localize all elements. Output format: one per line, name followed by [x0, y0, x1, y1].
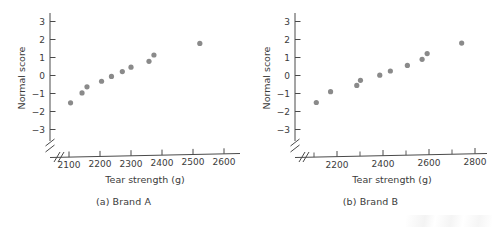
data-point	[425, 51, 430, 56]
scatter-plot-a: 3 2 1 0 −1 −2 −3	[0, 0, 247, 200]
x-ticklabel-a-2: 2300	[120, 159, 143, 169]
y-ticklabel-b-4: −1	[277, 89, 290, 99]
y-ticklabel-a-0: 3	[39, 17, 45, 27]
y-ticklabel-b-1: 2	[284, 35, 290, 45]
data-point	[109, 74, 114, 79]
panel-caption-b: (b) Brand B	[247, 196, 494, 207]
y-ticklabel-a-6: −3	[32, 125, 45, 135]
data-point	[151, 52, 156, 57]
data-point	[314, 100, 319, 105]
y-ticks-a	[50, 22, 56, 130]
x-ticklabel-b-1: 2400	[372, 159, 395, 169]
x-ticklabel-a-5: 2600	[213, 157, 236, 167]
data-point	[388, 68, 393, 73]
y-ticklabel-a-5: −2	[32, 107, 45, 117]
x-axis-line-a	[50, 154, 240, 158]
panel-brand-a: 3 2 1 0 −1 −2 −3	[0, 0, 247, 228]
y-ticklabel-a-4: −1	[32, 89, 45, 99]
data-point	[68, 100, 73, 105]
y-ticklabel-b-5: −2	[277, 107, 290, 117]
x-axis-title-b: Tear strength (g)	[351, 174, 431, 185]
y-axis-title-a: Normal score	[16, 46, 27, 109]
y-ticklabel-b-6: −3	[277, 125, 290, 135]
panel-brand-b: 3 2 1 0 −1 −2 −3	[247, 0, 494, 228]
data-point	[99, 79, 104, 84]
y-ticklabel-b-3: 0	[284, 71, 290, 81]
y-ticklabel-b-0: 3	[284, 17, 290, 27]
y-axis-title-b: Normal score	[261, 46, 272, 109]
data-point	[358, 78, 363, 83]
data-point	[79, 90, 84, 95]
x-ticklabel-a-1: 2200	[89, 159, 112, 169]
data-point	[84, 84, 89, 89]
data-point	[405, 63, 410, 68]
data-point	[328, 89, 333, 94]
scatter-plot-b: 3 2 1 0 −1 −2 −3	[247, 0, 494, 200]
x-ticklabel-b-0: 2200	[326, 160, 349, 170]
x-axis-line-b	[295, 154, 487, 158]
x-ticklabel-a-0: 2100	[58, 160, 81, 170]
data-point	[354, 83, 359, 88]
y-ticklabel-a-3: 0	[39, 71, 45, 81]
data-point	[420, 57, 425, 62]
x-axis-title-a: Tear strength (g)	[104, 174, 184, 185]
panel-caption-a: (a) Brand A	[0, 196, 247, 207]
data-point	[120, 69, 125, 74]
x-ticklabel-b-3: 2800	[464, 157, 487, 167]
data-point	[377, 73, 382, 78]
normal-probability-plots-figure: 3 2 1 0 −1 −2 −3	[0, 0, 494, 228]
x-ticklabel-a-3: 2400	[151, 158, 174, 168]
data-point	[197, 41, 202, 46]
y-ticklabel-a-1: 2	[39, 35, 45, 45]
data-point	[459, 41, 464, 46]
x-ticklabel-b-2: 2600	[418, 158, 441, 168]
y-ticklabel-b-2: 1	[284, 53, 290, 63]
y-ticks-b	[295, 22, 301, 130]
data-points-b	[314, 41, 465, 106]
x-ticklabel-a-4: 2500	[182, 157, 205, 167]
data-point	[128, 65, 133, 70]
y-ticklabel-a-2: 1	[39, 53, 45, 63]
data-points-a	[68, 41, 202, 106]
data-point	[146, 59, 151, 64]
